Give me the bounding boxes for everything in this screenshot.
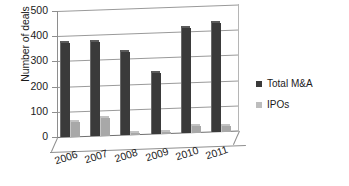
bar-top	[100, 116, 109, 118]
legend: Total M&A IPOs	[256, 79, 313, 121]
bar-2009-ipos	[161, 132, 170, 134]
bar-2007-ipos	[100, 118, 109, 136]
bar-face	[161, 132, 171, 134]
bar-2006-total-ma	[60, 43, 69, 138]
bar-top	[211, 21, 220, 23]
bar-chart: Number of deals 0100200300400500 2006200…	[0, 0, 349, 186]
y-tick-label-300: 300	[14, 55, 48, 65]
back-wall-right-edge	[238, 4, 239, 131]
bar-top	[181, 26, 190, 28]
y-tick-label-0: 0	[14, 131, 48, 141]
bar-top	[151, 71, 160, 73]
gridline-500	[57, 4, 239, 12]
x-axis-label-2010: 2010	[174, 143, 200, 162]
bar-2010-ipos	[191, 126, 200, 132]
bar-top	[161, 130, 170, 132]
bar-face	[100, 118, 110, 136]
bar-face	[191, 126, 201, 132]
bar-top	[120, 50, 129, 52]
bar-face	[181, 28, 191, 133]
bar-2007-total-ma	[90, 42, 99, 136]
y-tick-label-500: 500	[14, 5, 48, 15]
bar-face	[70, 122, 80, 137]
bar-2008-total-ma	[120, 52, 129, 135]
bar-2011-ipos	[221, 126, 230, 132]
bar-top	[191, 124, 200, 126]
legend-label-ipos: IPOs	[267, 100, 289, 110]
bar-face	[120, 52, 130, 135]
legend-item-total-ma[interactable]: Total M&A	[256, 79, 313, 89]
legend-label-total-ma: Total M&A	[267, 79, 313, 89]
y-axis-line	[57, 11, 58, 138]
legend-swatch-icon-ipos	[256, 102, 262, 108]
bar-2006-ipos	[70, 122, 79, 137]
bar-face	[60, 43, 70, 138]
x-axis-label-2009: 2009	[144, 145, 170, 164]
bar-top	[130, 131, 139, 133]
bar-top	[60, 41, 69, 43]
bar-face	[90, 42, 100, 136]
floor-left-edge	[50, 138, 58, 153]
y-tick-label-400: 400	[14, 30, 48, 40]
legend-item-ipos[interactable]: IPOs	[256, 100, 313, 110]
bar-2011-total-ma	[211, 23, 220, 132]
bar-2010-total-ma	[181, 28, 190, 133]
x-axis-label-2008: 2008	[113, 146, 139, 165]
bar-top	[90, 40, 99, 42]
bar-top	[70, 120, 79, 122]
bar-top	[221, 124, 230, 126]
bar-face	[211, 23, 221, 132]
bar-2009-total-ma	[151, 73, 160, 133]
bar-2008-ipos	[130, 133, 139, 135]
y-tick-label-200: 200	[14, 81, 48, 91]
bar-face	[221, 126, 231, 132]
x-axis-label-2007: 2007	[83, 147, 109, 166]
bar-face	[130, 133, 140, 135]
legend-swatch-icon-total-ma	[256, 81, 262, 87]
gridline-0	[57, 130, 239, 138]
floor-right-edge	[239, 131, 247, 146]
y-tick-label-100: 100	[14, 106, 48, 116]
bar-face	[151, 73, 161, 133]
